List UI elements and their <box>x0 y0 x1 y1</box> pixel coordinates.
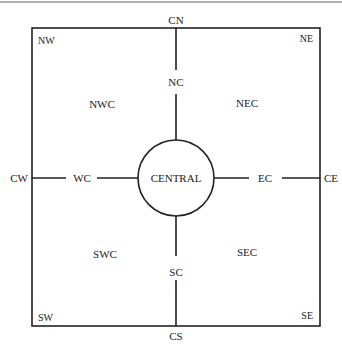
label-sc: SC <box>169 266 182 278</box>
label-central: CENTRAL <box>151 172 202 184</box>
label-swc: SWC <box>93 248 117 260</box>
label-cn: CN <box>168 14 183 26</box>
label-ne: NE <box>300 33 313 44</box>
label-nc: NC <box>168 76 183 88</box>
label-ec: EC <box>258 172 272 184</box>
label-se: SE <box>301 310 313 321</box>
label-cw: CW <box>10 172 28 184</box>
zone-diagram: NW NE SW SE CN CS CW CE NC SC WC EC NWC … <box>0 0 342 347</box>
label-cs: CS <box>169 330 182 342</box>
label-wc: WC <box>73 172 91 184</box>
label-sec: SEC <box>237 246 257 258</box>
label-ce: CE <box>324 172 338 184</box>
label-nwc: NWC <box>89 98 115 110</box>
label-sw: SW <box>38 312 54 323</box>
label-nec: NEC <box>236 97 258 109</box>
label-nw: NW <box>38 35 55 46</box>
